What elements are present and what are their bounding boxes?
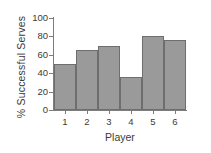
bar-1 xyxy=(54,64,76,110)
x-tick-mark xyxy=(131,111,132,114)
y-tick-label: 100 xyxy=(18,13,48,23)
bar-3 xyxy=(98,46,120,110)
y-tick-label: 80 xyxy=(18,31,48,41)
x-tick-label-1: 1 xyxy=(53,117,77,127)
plot-area xyxy=(54,18,186,110)
x-axis-title: Player xyxy=(54,131,186,143)
x-axis-line xyxy=(53,110,187,111)
y-tick-label: 0 xyxy=(18,105,48,115)
x-tick-label-5: 5 xyxy=(141,117,165,127)
x-tick-label-3: 3 xyxy=(97,117,121,127)
y-tick-mark xyxy=(49,55,53,56)
bar-6 xyxy=(164,40,186,110)
bar-chart-figure: % Successful Serves 020406080100 123456 … xyxy=(0,0,211,153)
y-tick-mark xyxy=(49,110,53,111)
y-tick-label: 60 xyxy=(18,50,48,60)
x-tick-mark xyxy=(109,111,110,114)
y-tick-mark xyxy=(49,92,53,93)
y-tick-label: 40 xyxy=(18,68,48,78)
bar-4 xyxy=(120,77,142,110)
x-tick-mark xyxy=(175,111,176,114)
y-tick-mark xyxy=(49,73,53,74)
y-tick-mark xyxy=(49,36,53,37)
x-tick-label-4: 4 xyxy=(119,117,143,127)
x-tick-label-6: 6 xyxy=(163,117,187,127)
x-tick-mark xyxy=(87,111,88,114)
x-tick-mark xyxy=(65,111,66,114)
x-tick-mark xyxy=(153,111,154,114)
x-tick-label-2: 2 xyxy=(75,117,99,127)
bar-2 xyxy=(76,50,98,110)
y-tick-label: 20 xyxy=(18,87,48,97)
y-tick-mark xyxy=(49,18,53,19)
bar-5 xyxy=(142,36,164,110)
